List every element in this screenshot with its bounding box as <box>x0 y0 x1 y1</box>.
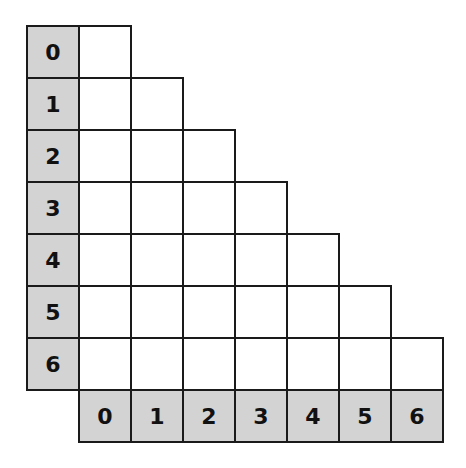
grid-cell-5-0 <box>78 285 132 339</box>
col-header-4: 4 <box>286 389 340 443</box>
grid-cell-6-2 <box>182 337 236 391</box>
grid-cell-6-1 <box>130 337 184 391</box>
grid-cell-6-6 <box>390 337 444 391</box>
col-header-3: 3 <box>234 389 288 443</box>
row-header-5: 5 <box>26 285 80 339</box>
row-header-4: 4 <box>26 233 80 287</box>
col-header-2: 2 <box>182 389 236 443</box>
grid-cell-6-0 <box>78 337 132 391</box>
grid-cell-3-3 <box>234 181 288 235</box>
grid-cell-0-0 <box>78 25 132 79</box>
grid-cell-4-4 <box>286 233 340 287</box>
row-header-3: 3 <box>26 181 80 235</box>
grid-cell-4-1 <box>130 233 184 287</box>
grid-cell-4-3 <box>234 233 288 287</box>
grid-cell-6-4 <box>286 337 340 391</box>
grid-cell-5-2 <box>182 285 236 339</box>
grid-cell-5-4 <box>286 285 340 339</box>
grid-cell-6-3 <box>234 337 288 391</box>
grid-cell-6-5 <box>338 337 392 391</box>
row-header-0: 0 <box>26 25 80 79</box>
row-header-6: 6 <box>26 337 80 391</box>
grid-cell-3-0 <box>78 181 132 235</box>
grid-cell-1-1 <box>130 77 184 131</box>
grid-cell-4-2 <box>182 233 236 287</box>
col-header-6: 6 <box>390 389 444 443</box>
grid-cell-3-1 <box>130 181 184 235</box>
grid-cell-5-3 <box>234 285 288 339</box>
col-header-1: 1 <box>130 389 184 443</box>
grid-cell-2-0 <box>78 129 132 183</box>
grid-cell-4-0 <box>78 233 132 287</box>
grid-cell-5-5 <box>338 285 392 339</box>
grid-cell-2-2 <box>182 129 236 183</box>
grid-cell-1-0 <box>78 77 132 131</box>
row-header-1: 1 <box>26 77 80 131</box>
grid-cell-2-1 <box>130 129 184 183</box>
grid-cell-5-1 <box>130 285 184 339</box>
row-header-2: 2 <box>26 129 80 183</box>
col-header-0: 0 <box>78 389 132 443</box>
col-header-5: 5 <box>338 389 392 443</box>
grid-cell-3-2 <box>182 181 236 235</box>
